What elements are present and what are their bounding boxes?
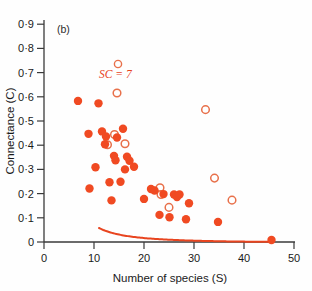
data-point-filled <box>74 97 82 105</box>
y-tick-label: 0·5 <box>18 115 34 127</box>
data-point-filled <box>130 163 138 171</box>
data-point-filled <box>94 99 102 107</box>
data-point-open <box>202 106 210 114</box>
data-point-filled <box>85 184 93 192</box>
open-marker-group <box>104 89 236 211</box>
filled-marker-group <box>74 97 276 245</box>
y-axis-ticks <box>37 24 44 242</box>
annotation-open-circle-icon <box>114 60 121 67</box>
data-point-filled <box>111 156 119 164</box>
data-point-open <box>121 140 129 148</box>
data-point-open <box>113 89 121 97</box>
data-point-filled <box>101 140 109 148</box>
y-tick-label: 0·9 <box>18 18 34 30</box>
data-point-filled <box>155 211 163 219</box>
x-tick-label: 0 <box>41 252 47 264</box>
data-point-filled <box>214 218 222 226</box>
x-tick-label: 20 <box>138 252 150 264</box>
scatter-chart: 0·9 0·8 0·7 0·6 0·5 0·4 0·3 0·2 0·1 0 0 … <box>0 0 312 291</box>
y-tick-label: 0·7 <box>18 67 34 79</box>
fit-curve <box>99 228 272 242</box>
data-point-filled <box>267 236 275 244</box>
x-axis-tick-labels: 0 10 20 30 40 50 <box>41 252 300 264</box>
x-tick-label: 10 <box>88 252 100 264</box>
y-tick-label: 0·8 <box>18 42 34 54</box>
data-point-open <box>228 196 236 204</box>
data-point-filled <box>140 195 148 203</box>
data-point-open <box>211 174 219 182</box>
data-point-filled <box>121 165 129 173</box>
data-point-filled <box>91 163 99 171</box>
annotation-label: SC = 7 <box>99 68 133 80</box>
y-tick-label: 0 <box>28 236 34 248</box>
data-point-filled <box>165 213 173 221</box>
x-tick-label: 30 <box>188 252 200 264</box>
y-tick-label: 0·2 <box>18 188 34 200</box>
data-point-filled <box>185 199 193 207</box>
x-tick-label: 50 <box>288 252 300 264</box>
data-point-filled <box>182 215 190 223</box>
data-point-open <box>165 204 173 212</box>
data-point-filled <box>116 178 124 186</box>
y-axis-title: Connectance (C) <box>4 87 16 174</box>
data-point-filled <box>107 196 115 204</box>
data-point-filled <box>113 133 121 141</box>
y-tick-label: 0·1 <box>18 212 34 224</box>
data-point-filled <box>105 178 113 186</box>
data-point-filled <box>175 190 183 198</box>
data-point-filled <box>84 130 92 138</box>
x-axis-title: Number of species (S) <box>113 272 228 284</box>
x-axis-ticks <box>44 242 294 249</box>
data-point-filled <box>119 125 127 133</box>
y-tick-label: 0·3 <box>18 163 34 175</box>
annotation-group: SC = 7 <box>99 60 133 80</box>
data-point-filled <box>159 190 167 198</box>
x-tick-label: 40 <box>238 252 250 264</box>
y-tick-label: 0·6 <box>18 91 34 103</box>
figure-panel-b: 0·9 0·8 0·7 0·6 0·5 0·4 0·3 0·2 0·1 0 0 … <box>0 0 312 291</box>
data-point-filled <box>102 132 110 140</box>
y-axis-tick-labels: 0·9 0·8 0·7 0·6 0·5 0·4 0·3 0·2 0·1 0 <box>18 18 34 248</box>
y-tick-label: 0·4 <box>18 139 34 151</box>
panel-label: (b) <box>57 23 70 35</box>
data-point-filled <box>150 186 158 194</box>
